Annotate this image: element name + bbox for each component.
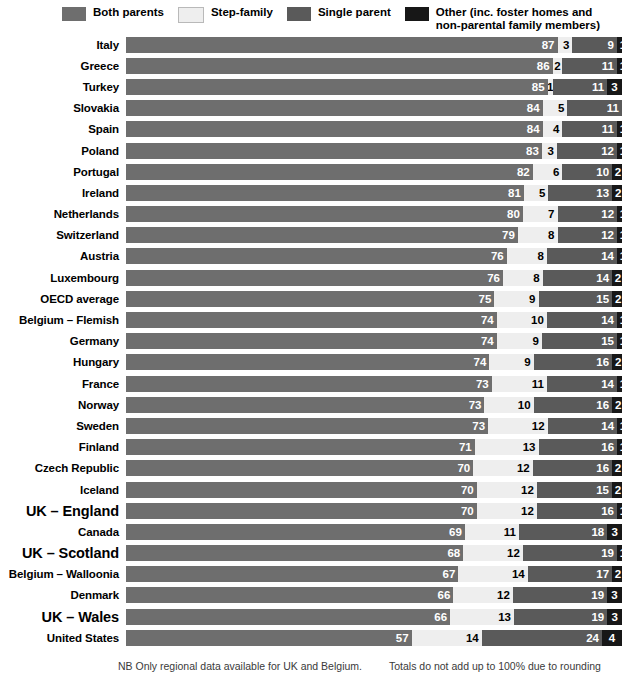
legend-item-step-family: Step-family [178, 6, 273, 23]
bar-segment-stepfamily: 3 [558, 37, 573, 53]
bar-segment-both: 76 [126, 270, 503, 286]
bar-segment-stepfamily: 6 [533, 164, 563, 180]
row-label: Finland [0, 441, 126, 453]
bar-segment-other: 3 [607, 587, 622, 603]
bar-segment-single: 19 [523, 545, 617, 561]
row-label: UK – England [0, 503, 126, 519]
bar-segment-other: 1 [617, 227, 622, 243]
chart-row: Luxembourg768142 [0, 267, 629, 288]
bar-segment-both: 67 [126, 566, 458, 582]
bar-segment-single: 15 [539, 291, 613, 307]
stacked-bar: 844111 [126, 121, 622, 137]
row-label: Ireland [0, 187, 126, 199]
stacked-bar: 6714172 [126, 566, 622, 582]
chart-row: Finland7113161 [0, 437, 629, 458]
stacked-bar: 759152 [126, 291, 622, 307]
row-label: OECD average [0, 293, 126, 305]
stacked-bar: 7113161 [126, 439, 622, 455]
bar-segment-single: 11 [567, 100, 622, 116]
bar-segment-stepfamily: 9 [494, 291, 538, 307]
stacked-bar: 6911183 [126, 524, 622, 540]
chart-row: Sweden7312141 [0, 415, 629, 436]
bar-segment-both: 87 [126, 37, 558, 53]
bar-segment-other: 1 [617, 503, 622, 519]
stacked-bar: 7012161 [126, 503, 622, 519]
bar-segment-both: 71 [126, 439, 475, 455]
bar-segment-both: 66 [126, 587, 453, 603]
bar-segment-single: 15 [537, 482, 612, 498]
stacked-bar: 5714244 [126, 630, 622, 646]
bar-segment-other: 1 [617, 121, 622, 137]
bar-segment-stepfamily: 14 [458, 566, 527, 582]
stacked-bar: 749162 [126, 354, 622, 370]
bar-segment-single: 19 [514, 609, 607, 625]
bar-segment-stepfamily: 11 [465, 524, 519, 540]
bar-segment-stepfamily: 4 [543, 121, 563, 137]
bar-segment-both: 83 [126, 143, 542, 159]
stacked-bar: 84511 [126, 100, 622, 116]
bar-segment-single: 16 [533, 460, 612, 476]
bar-segment-stepfamily: 10 [484, 397, 533, 413]
chart-row: Italy87391 [0, 34, 629, 55]
bar-segment-single: 9 [572, 37, 617, 53]
bar-segment-single: 12 [558, 227, 618, 243]
legend-swatch-single-parent [287, 7, 311, 21]
chart-row: United States5714244 [0, 627, 629, 648]
stacked-bar: 87391 [126, 37, 622, 53]
row-label: Iceland [0, 484, 126, 496]
bar-segment-both: 68 [126, 545, 463, 561]
legend-label-step-family: Step-family [211, 6, 273, 19]
stacked-bar-chart: Italy87391Greece862111Turkey851113Slovak… [0, 34, 629, 658]
chart-row: Portugal826102 [0, 161, 629, 182]
row-label: Belgium – Flemish [0, 314, 126, 326]
bar-segment-other: 1 [617, 439, 622, 455]
stacked-bar: 6612193 [126, 587, 622, 603]
stacked-bar: 7410141 [126, 312, 622, 328]
bar-segment-stepfamily: 12 [477, 503, 537, 519]
bar-segment-single: 11 [562, 58, 617, 74]
bar-segment-both: 75 [126, 291, 494, 307]
legend-item-other: Other (inc. foster homes and non-parenta… [405, 6, 600, 31]
bar-segment-single: 12 [558, 206, 618, 222]
stacked-bar: 7311141 [126, 376, 622, 392]
chart-row: Canada6911183 [0, 521, 629, 542]
row-label: Switzerland [0, 229, 126, 241]
bar-segment-stepfamily: 7 [523, 206, 558, 222]
bar-segment-single: 13 [548, 185, 612, 201]
bar-segment-stepfamily: 12 [453, 587, 513, 603]
legend-label-single-parent: Single parent [318, 6, 391, 19]
bar-segment-single: 14 [547, 312, 617, 328]
bar-segment-both: 70 [126, 503, 477, 519]
bar-segment-other: 2 [612, 270, 622, 286]
bar-segment-both: 73 [126, 418, 488, 434]
bar-segment-other: 1 [617, 58, 622, 74]
bar-segment-single: 16 [539, 439, 618, 455]
bar-segment-both: 80 [126, 206, 523, 222]
footnote-right: Totals do not add up to 100% due to roun… [389, 660, 601, 672]
bar-segment-single: 10 [562, 164, 612, 180]
chart-row: UK – England7012161 [0, 500, 629, 521]
stacked-bar: 6613193 [126, 609, 622, 625]
chart-legend: Both parents Step-family Single parent O… [0, 0, 629, 34]
legend-item-both-parents: Both parents [62, 6, 164, 21]
bar-segment-both: 85 [126, 79, 548, 95]
bar-segment-stepfamily: 8 [518, 227, 558, 243]
bar-segment-stepfamily: 11 [492, 376, 547, 392]
bar-segment-other: 2 [612, 185, 622, 201]
bar-segment-single: 16 [534, 397, 613, 413]
chart-row: Spain844111 [0, 119, 629, 140]
bar-segment-single: 11 [553, 79, 608, 95]
chart-row: Turkey851113 [0, 76, 629, 97]
bar-segment-other: 2 [612, 164, 622, 180]
bar-segment-single: 17 [528, 566, 612, 582]
row-label: Norway [0, 399, 126, 411]
bar-segment-single: 14 [543, 270, 612, 286]
stacked-bar: 7310162 [126, 397, 622, 413]
bar-segment-both: 73 [126, 376, 492, 392]
bar-segment-other: 1 [617, 206, 622, 222]
bar-segment-stepfamily: 10 [497, 312, 547, 328]
bar-segment-stepfamily: 9 [489, 354, 533, 370]
bar-segment-both: 84 [126, 121, 543, 137]
chart-row: Belgium – Walloonia6714172 [0, 564, 629, 585]
bar-segment-both: 73 [126, 397, 484, 413]
